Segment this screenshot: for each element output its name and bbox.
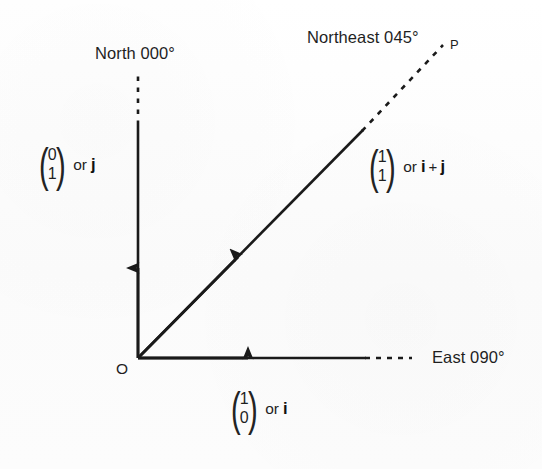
basis-vector-symbol: i [283, 399, 288, 418]
left-paren-icon: ( [369, 148, 379, 186]
basis-vector-symbol-2: j [440, 157, 445, 176]
left-paren-icon: ( [231, 390, 241, 428]
northeast-bearing-label: Northeast 045° [307, 29, 419, 46]
or-text: or [73, 156, 87, 174]
east-bearing-label: East 090° [432, 349, 505, 366]
north-bearing-label: North 000° [95, 45, 175, 62]
vector-diagram: North 000° Northeast 045° P East 090° O … [0, 0, 542, 469]
basis-vector-symbol: i [421, 157, 426, 176]
or-text: or [403, 158, 417, 176]
point-p-label: P [450, 38, 459, 51]
vector-label-i-plus-j: ( 1 1 ) or i + j [366, 148, 445, 186]
right-paren-icon: ) [56, 146, 66, 184]
basis-vector-symbol: j [91, 155, 96, 174]
northeast-dashed-extension [362, 45, 443, 131]
plus-sign: + [429, 158, 438, 175]
or-text: or [265, 400, 279, 418]
vector-label-j: ( 0 1 ) or j [36, 146, 96, 184]
right-paren-icon: ) [248, 390, 258, 428]
left-paren-icon: ( [39, 146, 49, 184]
right-paren-icon: ) [386, 148, 396, 186]
vector-label-i: ( 1 0 ) or i [228, 390, 288, 428]
i-plus-j-vector-arrow [138, 257, 238, 358]
origin-label: O [116, 361, 128, 377]
